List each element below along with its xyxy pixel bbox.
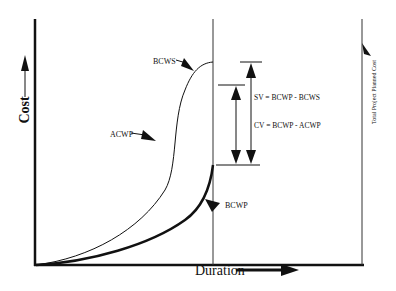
cv-up-arrow-icon xyxy=(246,63,256,78)
total-cost-pointer-icon xyxy=(362,43,371,56)
sv-down-arrow-icon xyxy=(231,150,241,164)
acwp-label: ACWP xyxy=(110,130,134,139)
cost-arrow-icon xyxy=(21,55,29,71)
bcws-pointer-icon xyxy=(181,58,194,71)
cv-formula: CV = BCWP - ACWP xyxy=(254,121,321,130)
cv-down-arrow-icon xyxy=(246,150,256,164)
earned-value-diagram: Cost Duration BCWS ACWP BCWP SV = BCWP -… xyxy=(0,0,396,291)
bcws-curve xyxy=(36,62,213,265)
bcwp-curve xyxy=(36,165,213,265)
y-axis-label: Cost xyxy=(17,96,32,124)
bcwp-label: BCWP xyxy=(225,201,248,210)
sv-formula: SV = BCWP - BCWS xyxy=(254,93,320,102)
bcws-label: BCWS xyxy=(153,57,176,66)
total-planned-cost-label: Total Project Planned Cost xyxy=(371,60,377,124)
acwp-pointer-icon xyxy=(141,130,156,141)
sv-up-arrow-icon xyxy=(231,86,241,100)
